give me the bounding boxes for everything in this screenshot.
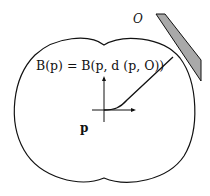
diagram-canvas: B(p) = B(p, d (p, O)) p O <box>0 0 210 196</box>
arrow-up-icon <box>102 76 106 81</box>
obstacle-label: O <box>133 12 143 26</box>
arrow-right-icon <box>131 108 136 112</box>
diagram-svg <box>0 0 210 196</box>
equation-label: B(p) = B(p, d (p, O)) <box>36 58 164 73</box>
point-label: p <box>80 121 88 135</box>
